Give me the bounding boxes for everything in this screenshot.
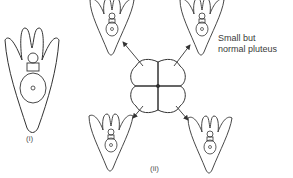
large-pluteus — [5, 28, 59, 133]
diagram-canvas — [0, 0, 293, 178]
annotation-line-2: normal pluteus — [218, 44, 277, 54]
small-pluteus-bottom-right — [188, 116, 232, 173]
small-pluteus-bottom-left — [89, 114, 133, 171]
panel-label-ii: (ii) — [150, 164, 159, 173]
arrows — [123, 42, 190, 120]
panel-label-i: (i) — [26, 134, 33, 143]
four-cell-embryo — [131, 59, 186, 112]
annotation-line-1: Small but — [218, 33, 256, 43]
